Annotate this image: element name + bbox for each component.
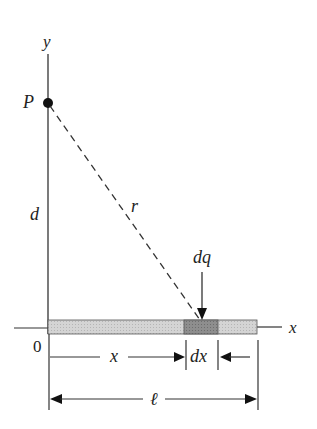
point-p xyxy=(43,98,53,108)
point-p-label: P xyxy=(22,92,34,112)
width-dx-label: dx xyxy=(190,346,207,366)
distance-r-line xyxy=(50,106,200,320)
x-axis-label: x xyxy=(288,318,297,337)
charge-element-dx xyxy=(184,320,218,334)
x-dimension-arrow-head xyxy=(174,352,185,362)
charged-rod-diagram: y x P d r dq 0 x dx ℓ xyxy=(0,0,317,429)
length-label: ℓ xyxy=(150,389,158,409)
dq-arrow-head xyxy=(197,308,207,320)
distance-d-label: d xyxy=(30,204,40,224)
length-arrow-head-right xyxy=(245,394,257,404)
origin-label: 0 xyxy=(33,337,42,356)
position-x-label: x xyxy=(109,346,118,366)
distance-r-label: r xyxy=(131,196,139,216)
y-axis-label: y xyxy=(41,32,51,51)
charged-rod xyxy=(48,320,257,334)
charge-element-label: dq xyxy=(193,247,211,267)
